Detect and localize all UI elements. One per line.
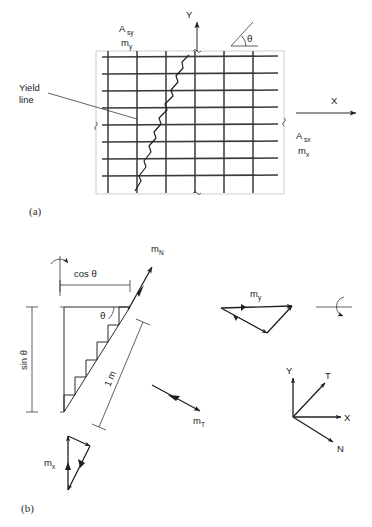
axis-t-label: T — [325, 370, 331, 381]
theta-label-a: θ — [247, 34, 253, 44]
asx-subscript: sx — [304, 136, 311, 143]
mn-label: m — [151, 243, 159, 254]
axis-y-label-a: Y — [186, 9, 193, 20]
asy-subscript: sy — [127, 29, 134, 37]
axis-x-label-b: X — [344, 412, 351, 423]
asx-label: A — [296, 130, 303, 141]
axis-n-label: N — [337, 443, 344, 454]
page-background — [0, 0, 372, 527]
my-label-b: m — [250, 288, 258, 299]
theta-label-b: θ — [100, 311, 106, 321]
cos-theta-label: cos θ — [74, 268, 97, 279]
my-label: m — [121, 37, 129, 48]
axis-y-label-b: Y — [286, 365, 293, 376]
yield-line-label-1: Yield — [19, 82, 40, 93]
axis-x-label-a: X — [331, 95, 338, 106]
yield-line-label-2: line — [19, 94, 34, 105]
mt-subscript: T — [201, 421, 205, 428]
sin-theta-label: sin θ — [18, 350, 29, 370]
figure-root: Yield line A sy m y A sx m x Y X — [0, 0, 372, 527]
mt-label: m — [193, 415, 201, 426]
panel-b-label: (b) — [21, 502, 34, 515]
asy-label: A — [119, 23, 126, 34]
mx-label-b: m — [44, 457, 52, 468]
mn-subscript: N — [159, 249, 164, 256]
panel-a-label: (a) — [29, 205, 42, 218]
mx-label: m — [298, 145, 306, 156]
